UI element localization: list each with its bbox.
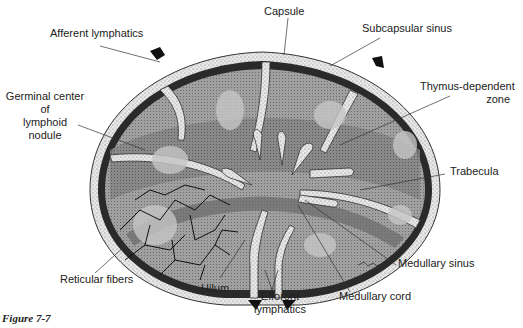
label-medullary-sinus: Medullary sinus <box>398 257 474 270</box>
afferent-arrow-left <box>150 47 165 60</box>
label-thymus-line2: zone <box>420 93 510 106</box>
figure-caption: Figure 7-7 <box>2 312 51 324</box>
label-germinal-center: Germinal center of lymphoid nodule <box>3 90 87 142</box>
label-efferent-lymphatics: Efforont lymphatics <box>250 290 310 316</box>
label-reticular-fibers: Reticular fibers <box>60 273 133 286</box>
label-efferent-line1: Efforont <box>250 290 310 303</box>
label-afferent-lymphatics: Afferent lymphatics <box>50 27 143 40</box>
label-germinal-line1: Germinal center <box>3 90 87 103</box>
label-subcapsular-sinus: Subcapsular sinus <box>362 22 452 35</box>
afferent-arrow-right <box>372 56 384 68</box>
label-medullary-cord: Medullary cord <box>339 290 411 303</box>
label-capsule: Capsule <box>264 5 304 18</box>
label-trabecula: Trabecula <box>450 165 499 178</box>
label-germinal-line4: nodule <box>3 129 87 142</box>
label-thymus-line1: Thymus-dependent <box>420 80 510 93</box>
label-germinal-line2: of <box>3 103 87 116</box>
label-hilum: Hilum <box>201 282 229 295</box>
label-efferent-line2: lymphatics <box>250 303 310 316</box>
label-germinal-line3: lymphoid <box>3 116 87 129</box>
label-thymus-dependent-zone: Thymus-dependent zone <box>420 80 510 106</box>
